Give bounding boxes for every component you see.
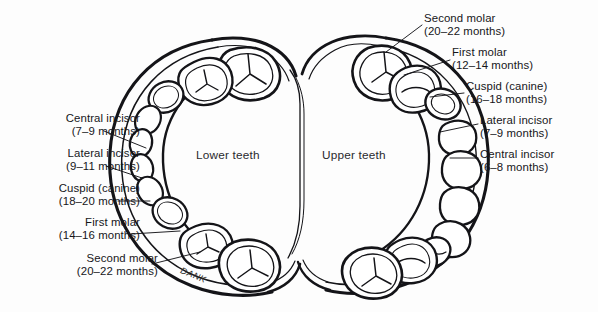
label-lower-lateral-incisor: Lateral incisor(9–11 months) [8,147,140,174]
tooth-name: First molar [22,216,140,229]
label-lower-central-incisor: Central incisor(7–9 months) [8,112,140,139]
label-upper-first-molar: First molar(12–14 months) [452,46,582,73]
eruption-age: (6–8 months) [480,161,592,174]
lower-tooth-second-molar-lower [219,240,280,292]
lower-tooth-first-molar-upper [178,58,232,105]
tooth-name: Cuspid (canine) [466,80,592,93]
teeth-eruption-figure: Central incisor(7–9 months)Lateral incis… [0,0,598,312]
label-lower-first-molar: First molar(14–16 months) [22,216,140,243]
arch-name-lower: Lower teeth [196,148,260,162]
eruption-age: (14–16 months) [22,229,140,242]
eruption-age: (9–11 months) [8,160,140,173]
tooth-name: Central incisor [8,112,140,125]
upper-tooth-central-incisor-upper [442,151,481,189]
eruption-age: (20–22 months) [424,25,556,38]
label-upper-cuspid: Cuspid (canine)(16–18 months) [466,80,592,107]
tooth-name: Lateral incisor [8,147,140,160]
eruption-age: (12–14 months) [452,59,582,72]
label-lower-cuspid: Cuspid (canine)(18–20 months) [8,182,140,209]
tooth-name: Lateral incisor [480,114,592,127]
label-upper-central-incisor: Central incisor(6–8 months) [480,148,592,175]
tooth-name: Cuspid (canine) [8,182,140,195]
tooth-name: Second molar [424,12,556,25]
eruption-age: (7–9 months) [480,127,592,140]
eruption-age: (18–20 months) [8,195,140,208]
label-upper-lateral-incisor: Lateral incisor(7–9 months) [480,114,592,141]
arch-name-upper: Upper teeth [322,148,386,162]
upper-tooth-central-incisor-lower [440,187,479,225]
eruption-age: (7–9 months) [8,125,140,138]
tooth-name: First molar [452,46,582,59]
eruption-age: (20–22 months) [48,265,158,278]
tooth-name: Central incisor [480,148,592,161]
upper-arch [298,36,488,299]
label-upper-second-molar: Second molar(20–22 months) [424,12,556,39]
upper-tooth-second-molar-lower [342,248,402,299]
eruption-age: (16–18 months) [466,93,592,106]
label-lower-second-molar: Second molar(20–22 months) [48,252,158,279]
tooth-name: Second molar [48,252,158,265]
